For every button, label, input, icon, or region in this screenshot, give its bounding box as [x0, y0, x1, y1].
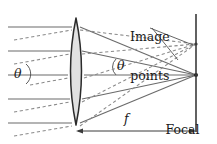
lens-body: [71, 18, 82, 125]
theta-right-angle-arc: [113, 59, 116, 75]
image-points-label: Image points: [130, 3, 170, 109]
image-points-label-line1: Image: [130, 30, 170, 43]
theta-left-angle-arc: [26, 64, 31, 84]
focal-plane-label-line1: Focal: [165, 123, 200, 136]
incoming-dashed-ray: [14, 30, 72, 40]
image-points-label-line2: points: [130, 69, 170, 82]
focal-length-label: f: [124, 113, 129, 126]
theta-left-label: θ: [14, 68, 22, 81]
ray-diagram-figure: Image points Focal plane θ θ f: [0, 0, 217, 144]
focal-plane-label: Focal plane: [165, 96, 200, 144]
incoming-dashed-ray: [14, 126, 72, 136]
incoming-dashed-rays: [14, 30, 72, 136]
incoming-dashed-ray: [30, 78, 68, 85]
theta-right-label: θ: [117, 60, 125, 73]
dimension-arrowhead-left: [76, 129, 83, 134]
incoming-dashed-ray: [14, 102, 70, 112]
incoming-dashed-ray: [14, 54, 70, 64]
